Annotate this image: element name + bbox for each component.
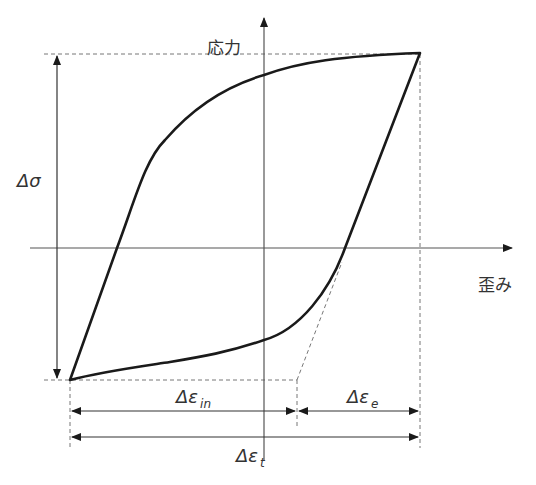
axes — [30, 18, 512, 460]
delta-eps-in-label: Δεin — [176, 386, 211, 407]
hysteresis-loop — [70, 53, 420, 380]
delta-eps-e-label: Δεe — [347, 386, 378, 407]
delta-sigma-label: Δσ — [17, 170, 41, 191]
hysteresis-diagram: 応力 歪み Δσ Δεin Δεe Δεt — [0, 0, 536, 485]
diagram-canvas — [0, 0, 536, 485]
delta-eps-t-label: Δεt — [236, 445, 265, 466]
y-axis-label: 応力 — [207, 34, 241, 59]
x-axis-label: 歪み — [478, 271, 512, 296]
